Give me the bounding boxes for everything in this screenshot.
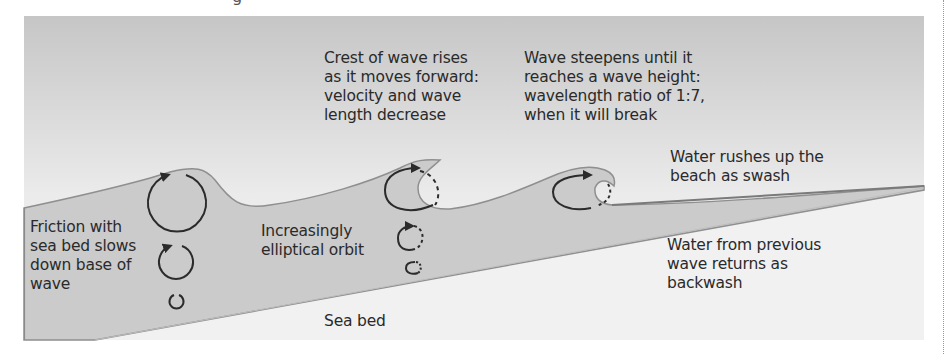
label-friction: Friction with sea bed slows down base of… [30,218,136,294]
label-line: down base of [30,256,136,275]
page-dotted-edge [943,0,944,354]
label-line: Increasingly [261,222,364,241]
title-fragment: g [232,0,242,6]
label-line: elliptical orbit [261,241,364,260]
label-line: Water from previous [667,236,821,255]
label-line: wave returns as [667,255,821,274]
label-line: sea bed slows [30,237,136,256]
label-elliptical-orbit: Increasingly elliptical orbit [261,222,364,260]
label-swash: Water rushes up the beach as swash [670,148,824,186]
label-line: wavelength ratio of 1:7, [524,87,705,106]
label-line: reaches a wave height: [524,68,705,87]
label-line: as it moves forward: [324,68,479,87]
label-line: length decrease [324,106,479,125]
label-line: Friction with [30,218,136,237]
label-line: Wave steepens until it [524,49,705,68]
label-line: velocity and wave [324,87,479,106]
label-line: backwash [667,274,821,293]
wave-diagram: g [0,0,947,354]
label-line: Water rushes up the [670,148,824,167]
label-line: beach as swash [670,167,824,186]
label-line: wave [30,275,136,294]
label-wave-steepens: Wave steepens until it reaches a wave he… [524,49,705,125]
label-line: when it will break [524,106,705,125]
label-line: Crest of wave rises [324,49,479,68]
label-crest-rises: Crest of wave rises as it moves forward:… [324,49,479,125]
label-sea-bed: Sea bed [324,312,386,331]
label-line: Sea bed [324,312,386,331]
label-backwash: Water from previous wave returns as back… [667,236,821,293]
